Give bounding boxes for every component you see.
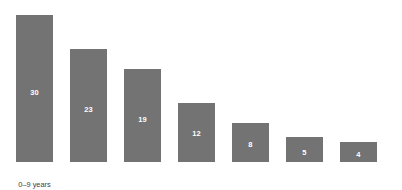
bar-value-label: 12 [178, 130, 215, 138]
bar[interactable]: 30 [16, 15, 53, 162]
bar[interactable]: 8 [232, 123, 269, 162]
bar-value-label: 4 [340, 151, 377, 159]
bar-value-label: 5 [286, 149, 323, 157]
bar-value-label: 30 [16, 89, 53, 97]
bar[interactable]: 12 [178, 103, 215, 162]
bar[interactable]: 5 [286, 137, 323, 162]
bar[interactable]: 4 [340, 142, 377, 162]
bar-value-label: 8 [232, 141, 269, 149]
bar-group[interactable]: 300–9 years [16, 15, 53, 162]
bar-group[interactable]: 550–59 years [286, 137, 323, 162]
bar-value-label: 19 [124, 116, 161, 124]
bar[interactable]: 23 [70, 49, 107, 162]
bar-group[interactable]: 840–49 years [232, 123, 269, 162]
bar[interactable]: 19 [124, 69, 161, 162]
bar-group[interactable]: 4Over 60s [340, 142, 377, 162]
plot-area: 300–9 years2310–19 years1920–29 years123… [0, 0, 402, 190]
bar-value-label: 23 [70, 106, 107, 114]
bar-chart-figure: 300–9 years2310–19 years1920–29 years123… [0, 0, 402, 190]
bar-group[interactable]: 1230–39 years [178, 103, 215, 162]
bar-group[interactable]: 2310–19 years [70, 49, 107, 162]
bar-group[interactable]: 1920–29 years [124, 69, 161, 162]
category-axis-label: 0–9 years [0, 181, 72, 188]
